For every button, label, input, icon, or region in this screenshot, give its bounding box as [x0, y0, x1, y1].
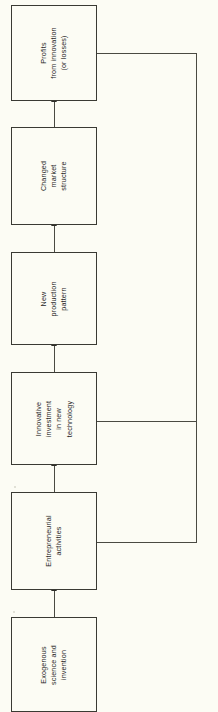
node-entrepreneurial-activities: Entrepreneurial activities	[11, 492, 97, 590]
connector-exogenous-to-entrepreneurial	[54, 590, 55, 617]
node-market-structure-line-2: market	[49, 161, 59, 191]
scan-speck	[14, 486, 16, 488]
node-entrepreneurial-activities-label: Entrepreneurial activities	[44, 515, 64, 566]
node-innovative-investment-line-3: in new	[54, 400, 64, 436]
connector-entrepreneurial-to-investment	[54, 465, 55, 492]
feedback-line-trunk	[196, 53, 197, 543]
node-production-pattern-line-1: New	[39, 281, 49, 316]
node-profits-line-3: (or losses)	[59, 27, 69, 78]
node-entrepreneurial-activities-line-2: activities	[54, 515, 64, 566]
node-market-structure-line-1: Changed	[39, 161, 49, 191]
scan-speck	[13, 611, 15, 613]
node-market-structure-line-3: structure	[59, 161, 69, 191]
node-market-structure: Changed market structure	[11, 127, 97, 225]
node-innovative-investment-line-2: investment	[44, 400, 54, 436]
connector-production-to-market	[54, 225, 55, 252]
node-production-pattern: New production pattern	[11, 252, 97, 345]
node-production-pattern-line-3: pattern	[59, 281, 69, 316]
node-profits-label: Profits from innovation (or losses)	[39, 27, 70, 78]
node-innovative-investment-label: Innovative investment in new technology	[34, 400, 75, 436]
node-market-structure-label: Changed market structure	[39, 161, 70, 191]
feedback-line-to-entrepreneurial	[97, 542, 196, 543]
connector-market-to-profits	[54, 101, 55, 128]
node-exogenous-science-line-1: Exogenous	[39, 644, 49, 684]
node-profits-line-1: Profits	[39, 27, 49, 78]
node-production-pattern-line-2: production	[49, 281, 59, 316]
node-exogenous-science-line-2: science and	[49, 644, 59, 684]
node-profits: Profits from innovation (or losses)	[11, 5, 97, 101]
node-production-pattern-label: New production pattern	[39, 281, 70, 316]
node-exogenous-science-label: Exogenous science and invention	[39, 644, 70, 684]
node-innovative-investment-line-4: technology	[64, 400, 74, 436]
node-exogenous-science-line-3: invention	[59, 644, 69, 684]
node-entrepreneurial-activities-line-1: Entrepreneurial	[44, 515, 54, 566]
node-innovative-investment-line-1: Innovative	[34, 400, 44, 436]
node-exogenous-science: Exogenous science and invention	[11, 617, 97, 712]
node-innovative-investment: Innovative investment in new technology	[11, 372, 97, 465]
feedback-line-to-investment	[97, 421, 196, 422]
feedback-line-from-profits	[97, 53, 197, 54]
node-profits-line-2: from innovation	[49, 27, 59, 78]
connector-investment-to-production	[54, 345, 55, 372]
